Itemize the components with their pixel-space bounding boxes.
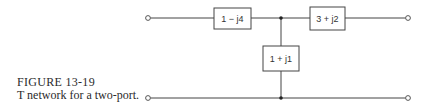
output-bottom-terminal	[406, 96, 411, 101]
input-bottom-terminal	[146, 96, 151, 101]
impedance-2-label: 3 + j2	[316, 14, 338, 24]
bottom-junction-dot	[279, 96, 283, 100]
impedance-3-label: 1 + j1	[270, 54, 292, 64]
input-top-terminal	[146, 16, 151, 21]
shunt-impedance: 1 + j1	[263, 46, 299, 71]
output-top-terminal	[406, 16, 411, 21]
t-network-figure: 1 − j4 3 + j2 1 + j1 FIGURE 13-19 T netw…	[0, 0, 425, 107]
series-impedance-1: 1 − j4	[214, 8, 251, 29]
series-impedance-2: 3 + j2	[310, 7, 345, 30]
figure-label: FIGURE 13-19	[17, 76, 95, 88]
top-junction-dot	[279, 16, 283, 20]
figure-caption: T network for a two-port.	[17, 89, 139, 101]
impedance-1-label: 1 − j4	[221, 14, 243, 24]
